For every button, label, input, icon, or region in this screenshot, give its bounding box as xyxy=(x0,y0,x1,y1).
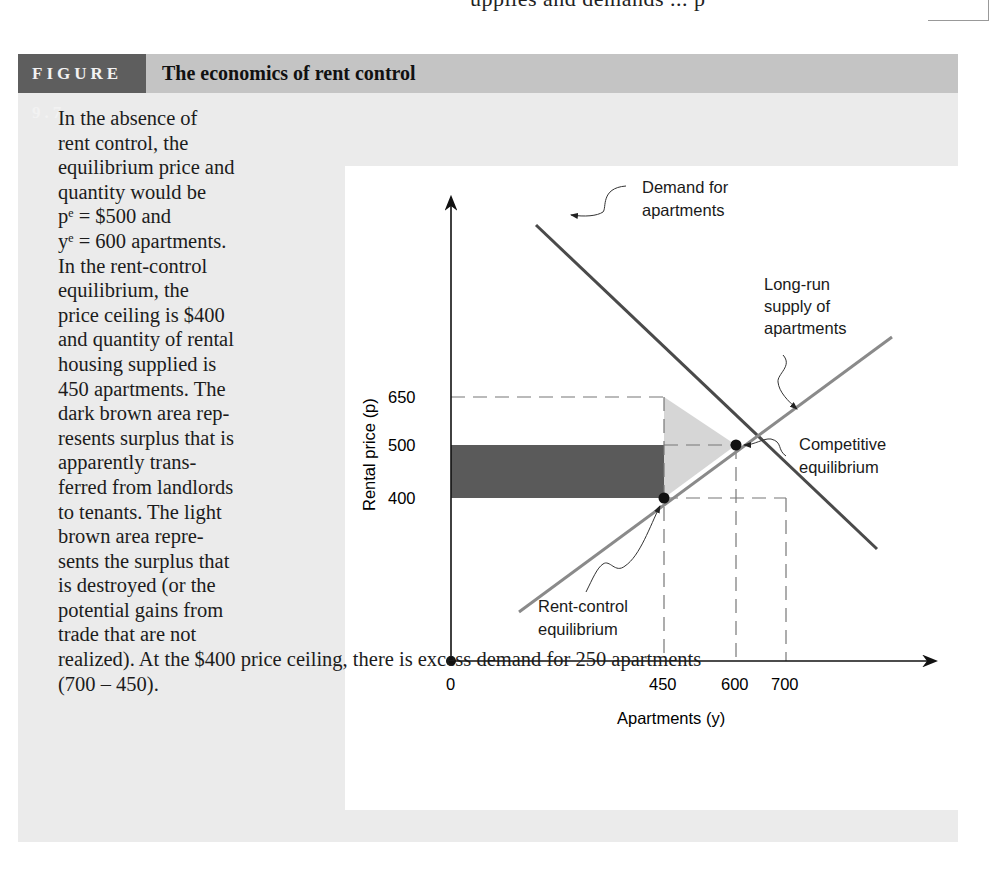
figure-header: FIGURE 9.7 The economics of rent control xyxy=(18,54,958,93)
x-axis-title: Apartments (y) xyxy=(617,709,725,727)
figure-box: FIGURE 9.7 The economics of rent control xyxy=(18,54,958,842)
caption-line: (700 – 450). xyxy=(58,672,990,697)
caption-line: equilibrium price and xyxy=(58,155,338,180)
caption-narrow-column: In the absence of rent control, the equi… xyxy=(58,106,338,647)
caption-line: and quantity of rental xyxy=(58,327,338,352)
caption-line: dark brown area rep- xyxy=(58,401,338,426)
figure-title: The economics of rent control xyxy=(162,54,416,93)
figure-label: FIGURE 9.7 xyxy=(18,54,146,93)
caption-line: rent control, the xyxy=(58,131,338,156)
page-top-fragment: upplies and demands ... p xyxy=(470,0,706,12)
caption-line: trade that are not xyxy=(58,622,338,647)
caption-line: price ceiling is $400 xyxy=(58,303,338,328)
caption-line: apparently trans- xyxy=(58,450,338,475)
caption-line: yᵉ = 600 apartments. xyxy=(58,229,338,254)
caption-line: In the absence of xyxy=(58,106,338,131)
caption-line: resents surplus that is xyxy=(58,426,338,451)
caption-line: ferred from landlords xyxy=(58,475,338,500)
caption-line: to tenants. The light xyxy=(58,500,338,525)
caption-line: pᵉ = $500 and xyxy=(58,204,338,229)
caption-line: In the rent-control xyxy=(58,254,338,279)
figure-caption: In the absence of rent control, the equi… xyxy=(58,106,990,696)
caption-line: brown area repre- xyxy=(58,524,338,549)
caption-line: potential gains from xyxy=(58,598,338,623)
caption-line: sents the surplus that xyxy=(58,549,338,574)
caption-line: quantity would be xyxy=(58,180,338,205)
caption-line: is destroyed (or the xyxy=(58,573,338,598)
page-corner-box xyxy=(928,0,989,21)
caption-line: realized). At the $400 price ceiling, th… xyxy=(58,647,990,672)
caption-line: housing supplied is xyxy=(58,352,338,377)
caption-line: 450 apartments. The xyxy=(58,377,338,402)
caption-line: equilibrium, the xyxy=(58,278,338,303)
